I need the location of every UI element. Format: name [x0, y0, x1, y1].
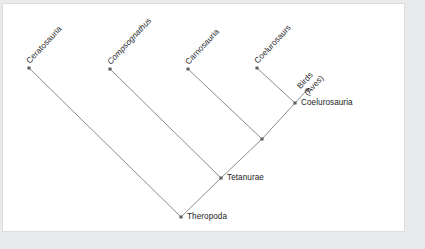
tree-label-coelurosauria: Coelurosauria	[301, 98, 353, 108]
tree-node-ceratosauria	[27, 66, 30, 69]
cladogram-nodes	[27, 66, 308, 218]
tree-branch-tetanurae-to-compsognathus	[110, 69, 221, 178]
tree-node-unnamed_clade	[260, 137, 263, 140]
tree-branch-coelurosauria-to-coelurosaurs	[257, 68, 295, 103]
tree-label-tetanurae: Tetanurae	[227, 173, 264, 183]
cladogram-edges	[29, 68, 307, 217]
tree-branch-unnamed_clade-to-carnosauria	[188, 69, 262, 139]
figure-stage: CeratosauriaCompsognathusCarnosauriaCoel…	[0, 0, 425, 249]
tree-node-theropoda	[179, 215, 182, 218]
tree-node-tetanurae	[219, 176, 222, 179]
tree-node-coelurosauria	[293, 101, 296, 104]
tree-node-coelurosaurs	[255, 66, 258, 69]
tree-node-compsognathus	[108, 67, 111, 70]
tree-node-carnosauria	[186, 67, 189, 70]
tree-label-theropoda: Theropoda	[187, 212, 227, 222]
tree-branch-theropoda-to-ceratosauria	[29, 68, 181, 217]
tree-branch-unnamed_clade-to-coelurosauria	[262, 103, 295, 139]
